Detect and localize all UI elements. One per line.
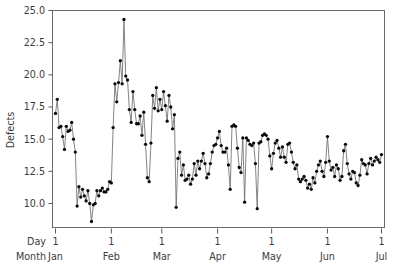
data-point <box>124 74 127 77</box>
data-point <box>167 94 170 97</box>
data-point <box>146 176 149 179</box>
data-point <box>236 147 239 150</box>
x-tick-label-day: 1 <box>215 236 221 247</box>
data-point <box>140 134 143 137</box>
data-point <box>120 82 123 85</box>
data-point <box>74 150 77 153</box>
data-point <box>326 135 329 138</box>
data-point <box>95 189 98 192</box>
data-point <box>290 150 293 153</box>
data-point <box>117 81 120 84</box>
x-tick-label-day: 1 <box>159 236 165 247</box>
data-point <box>238 166 241 169</box>
x-tick-label-month: Jun <box>319 251 335 262</box>
data-point <box>338 179 341 182</box>
data-point <box>119 59 122 62</box>
data-point <box>63 148 66 151</box>
x-axis-row-month-labels: JanFebMarAprMayJunJul <box>47 251 387 262</box>
data-point <box>79 195 82 198</box>
data-point <box>266 138 269 141</box>
data-point <box>371 163 374 166</box>
y-axis-ticks <box>49 11 53 204</box>
y-tick-label: 20.0 <box>24 69 45 80</box>
x-tick-label-month: Feb <box>103 251 120 262</box>
series-group <box>54 18 383 223</box>
x-tick-label-day: 1 <box>378 236 384 247</box>
data-point <box>160 108 163 111</box>
data-point <box>328 159 331 162</box>
data-point <box>265 134 268 137</box>
data-point <box>279 156 282 159</box>
run-chart: 10.012.515.017.520.022.525.0 Defects 111… <box>0 0 398 272</box>
data-point <box>178 150 181 153</box>
data-point <box>137 122 140 125</box>
data-point <box>84 199 87 202</box>
data-point <box>304 179 307 182</box>
y-tick-label: 12.5 <box>24 166 45 177</box>
data-point <box>283 156 286 159</box>
data-point <box>356 184 359 187</box>
x-tick-label-day: 1 <box>324 236 330 247</box>
y-tick-label: 25.0 <box>24 5 45 16</box>
data-point <box>111 126 114 129</box>
data-point <box>182 163 185 166</box>
data-point <box>171 127 174 130</box>
data-point <box>209 162 212 165</box>
data-point <box>214 143 217 146</box>
data-point <box>308 183 311 186</box>
data-point <box>259 140 262 143</box>
data-point <box>139 114 142 117</box>
y-tick-label: 15.0 <box>24 134 45 145</box>
data-point <box>324 161 327 164</box>
data-point <box>353 171 356 174</box>
data-point <box>83 194 86 197</box>
data-point <box>54 112 57 115</box>
x-tick-label-month: Mar <box>153 251 171 262</box>
data-point <box>122 18 125 21</box>
data-point <box>229 188 232 191</box>
data-point <box>115 100 118 103</box>
data-point <box>313 181 316 184</box>
data-point <box>311 176 314 179</box>
data-point <box>360 158 363 161</box>
data-point <box>77 185 80 188</box>
data-point <box>284 161 287 164</box>
y-axis-tick-labels: 10.012.515.017.520.022.525.0 <box>24 5 45 209</box>
data-point <box>196 159 199 162</box>
data-point <box>193 162 196 165</box>
data-point <box>247 139 250 142</box>
y-axis-title: Defects <box>5 112 16 149</box>
data-point <box>268 154 271 157</box>
data-point <box>126 78 129 81</box>
data-point <box>187 174 190 177</box>
data-point <box>175 206 178 209</box>
data-point <box>335 163 338 166</box>
data-point <box>61 135 64 138</box>
data-point <box>369 157 372 160</box>
data-point <box>315 170 318 173</box>
data-point <box>142 111 145 114</box>
data-point <box>317 163 320 166</box>
data-point <box>162 90 165 93</box>
data-point <box>218 130 221 133</box>
plot-frame <box>53 11 385 228</box>
data-point <box>234 125 237 128</box>
data-point <box>88 202 91 205</box>
data-point <box>373 159 376 162</box>
data-point <box>322 175 325 178</box>
data-point <box>155 86 158 89</box>
data-point <box>207 172 210 175</box>
data-point <box>148 180 151 183</box>
data-point <box>200 159 203 162</box>
data-point <box>306 186 309 189</box>
data-point <box>270 167 273 170</box>
x-tick-label-day: 1 <box>269 236 275 247</box>
data-point <box>347 172 350 175</box>
data-point <box>180 174 183 177</box>
data-point <box>169 105 172 108</box>
data-point <box>340 175 343 178</box>
data-point <box>130 121 133 124</box>
data-point <box>81 188 84 191</box>
x-tick-label-month: Apr <box>209 251 226 262</box>
x-tick-label-day: 1 <box>52 236 58 247</box>
